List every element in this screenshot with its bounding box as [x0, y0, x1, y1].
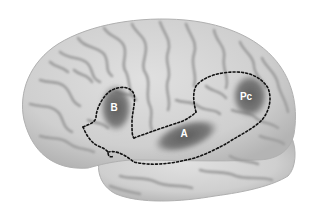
- region-label-b: B: [110, 102, 117, 113]
- region-label-a: A: [180, 128, 187, 139]
- region-label-pc: Pc: [240, 91, 253, 102]
- brain-illustration: B A Pc: [0, 0, 319, 224]
- brain-diagram: B A Pc: [0, 0, 319, 224]
